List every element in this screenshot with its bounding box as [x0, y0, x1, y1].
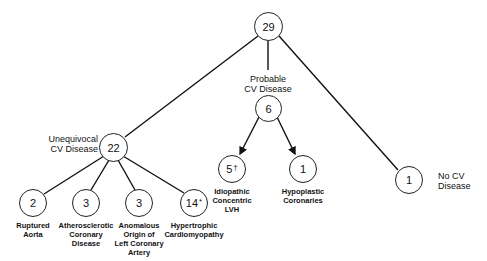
unequivocal-node: 22 — [99, 133, 128, 162]
atherosclerotic-count: 3 — [83, 197, 89, 209]
hypoplastic-node: 1 — [289, 155, 317, 183]
no-cv-count: 1 — [406, 174, 412, 186]
asterisk-mark: * — [199, 197, 202, 206]
hypertrophic-count: 14 — [186, 197, 198, 209]
probable-count: 6 — [265, 103, 271, 115]
unequivocal-label: Unequivocal CV Disease — [38, 134, 98, 154]
root-count: 29 — [262, 21, 274, 33]
hypertrophic-node: 14* — [180, 189, 208, 217]
hypertrophic-label: Hypertrophic Cardiomyopathy — [161, 221, 227, 239]
probable-label: Probable CV Disease — [230, 74, 306, 94]
lvh-label: Idiopathic Concentric LVH — [200, 187, 264, 214]
lvh-node: 5† — [218, 155, 246, 183]
no-cv-label: No CV Disease — [438, 171, 478, 191]
anomalous-origin-count: 3 — [136, 197, 142, 209]
probable-node: 6 — [255, 95, 282, 122]
ruptured-aorta-count: 2 — [30, 197, 36, 209]
lvh-count: 5 — [226, 163, 232, 175]
no-cv-node: 1 — [395, 166, 423, 194]
anomalous-origin-node: 3 — [125, 189, 153, 217]
atherosclerotic-node: 3 — [72, 189, 100, 217]
hypoplastic-count: 1 — [300, 163, 306, 175]
ruptured-aorta-node: 2 — [19, 189, 47, 217]
unequivocal-count: 22 — [107, 142, 119, 154]
anomalous-origin-label: Anomalous Origin of Left Coronary Artery — [109, 221, 169, 257]
hypoplastic-label: Hypoplastic Coronaries — [273, 187, 333, 205]
dagger-mark: † — [233, 163, 237, 172]
root-node: 29 — [254, 12, 283, 41]
